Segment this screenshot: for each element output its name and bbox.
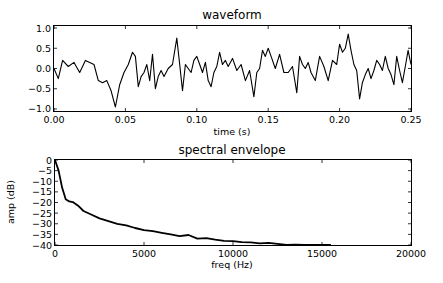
y-tick-label: 0.0 — [36, 63, 51, 74]
spectral-title: spectral envelope — [178, 143, 285, 157]
y-tick-label: −1.0 — [28, 103, 51, 114]
spectral-subplot: spectral envelope 05000100001500020000 0… — [5, 143, 426, 270]
spectral-x-label: freq (Hz) — [211, 259, 252, 270]
x-tick-label: 0.00 — [43, 114, 64, 125]
x-tick-label: 0.05 — [115, 114, 136, 125]
spectral-x-ticks: 05000100001500020000 — [52, 160, 426, 259]
y-tick-label: −5 — [38, 165, 52, 176]
waveform-title: waveform — [202, 8, 262, 22]
spectral-y-ticks: 0−5−10−15−20−25−30−35−40 — [32, 155, 411, 251]
x-tick-label: 20000 — [396, 248, 426, 259]
y-tick-label: −40 — [32, 240, 52, 251]
x-tick-label: 10000 — [218, 248, 248, 259]
waveform-subplot: waveform 0.000.050.100.150.200.25 1.00.5… — [28, 8, 422, 137]
figure: waveform 0.000.050.100.150.200.25 1.00.5… — [0, 0, 443, 283]
waveform-axes-frame — [54, 26, 412, 112]
x-tick-label: 0 — [52, 248, 58, 259]
y-tick-label: 1.0 — [36, 23, 51, 34]
x-tick-label: 0.10 — [186, 114, 207, 125]
y-tick-label: 0 — [46, 155, 52, 166]
x-tick-label: 15000 — [307, 248, 337, 259]
series-line — [54, 34, 411, 107]
waveform-plot-area — [54, 34, 411, 107]
y-tick-label: −10 — [32, 176, 52, 187]
y-tick-label: −25 — [32, 208, 52, 219]
y-tick-label: −15 — [32, 186, 52, 197]
waveform-x-label: time (s) — [214, 126, 251, 137]
y-tick-label: 0.5 — [36, 43, 51, 54]
x-tick-label: 5000 — [132, 248, 156, 259]
x-tick-label: 0.15 — [258, 114, 279, 125]
y-tick-label: −35 — [32, 229, 52, 240]
spectral-axes-frame — [55, 160, 412, 246]
y-tick-label: −30 — [32, 218, 52, 229]
x-tick-label: 0.25 — [400, 114, 421, 125]
y-tick-label: −20 — [32, 197, 52, 208]
y-tick-label: −0.5 — [28, 83, 51, 94]
waveform-y-ticks: 1.00.50.0−0.5−1.0 — [28, 23, 411, 115]
spectral-plot-area — [55, 160, 331, 245]
series-line — [55, 160, 331, 245]
x-tick-label: 0.20 — [329, 114, 350, 125]
spectral-y-label: amp (dB) — [5, 180, 16, 224]
